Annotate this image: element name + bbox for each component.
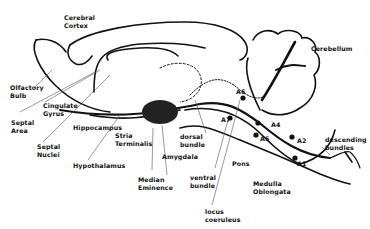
label-a1: A1 — [297, 160, 306, 168]
label-septal-nuclei: Septal Nuclei — [37, 143, 60, 158]
label-hypothalamus: Hypothalamus — [73, 162, 125, 170]
a2-dot — [289, 134, 294, 139]
label-septal-area: Septal Area — [11, 119, 34, 134]
label-olfactory-bulb: Olfactory Bulb — [10, 84, 44, 99]
label-median-eminence: Median Eminence — [138, 176, 173, 191]
label-hippocampus: Hippocampus — [73, 124, 122, 132]
label-descending-bundles: descending bundles — [325, 136, 367, 151]
label-a5: A5 — [260, 135, 269, 143]
label-a7: A7 — [221, 116, 230, 124]
cerebellum-outline — [253, 31, 319, 115]
a6-dot — [240, 95, 245, 100]
label-cerebellum: Cerebellum — [311, 45, 352, 53]
label-a4: A4 — [271, 121, 280, 129]
label-medulla-oblongata: Medulla Oblongata — [253, 180, 291, 195]
label-a2: A2 — [297, 137, 306, 145]
label-a6: A6 — [236, 88, 245, 96]
a5-dot — [253, 132, 258, 137]
a4-dot — [255, 120, 260, 125]
label-dorsal-bundle: dorsal bundle — [180, 133, 205, 148]
label-cingulate-gyrus: Cingulate Gyrus — [43, 102, 78, 117]
label-cerebral-cortex: Cerebral Cortex — [64, 14, 95, 29]
label-locus-coeruleus: locus coeruleus — [205, 208, 240, 223]
label-amygdala: Amygdala — [162, 153, 198, 161]
brain-pathway-diagram: Cerebral Cortex Cerebellum Olfactory Bul… — [0, 0, 370, 229]
label-stria-terminalis: Stria Terminalis — [115, 132, 152, 147]
amygdala-shape — [142, 100, 178, 124]
label-pons: Pons — [232, 160, 250, 168]
cortex-outline — [70, 22, 247, 60]
label-ventral-bundle: ventral bundle — [190, 174, 216, 189]
